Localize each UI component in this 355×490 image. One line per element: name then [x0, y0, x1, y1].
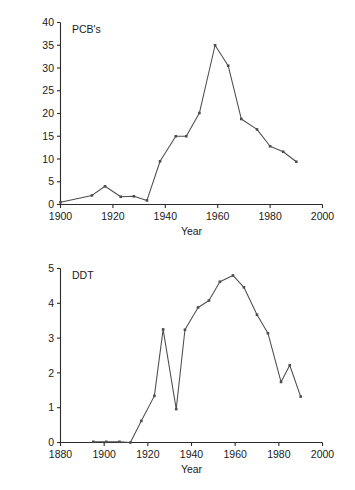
x-tick-label: 1940 — [154, 210, 178, 222]
y-tick-label: 30 — [42, 62, 54, 74]
y-tick-label: 25 — [42, 84, 54, 96]
data-point-marker — [256, 313, 259, 316]
y-tick-label: 35 — [42, 39, 54, 51]
data-point-marker — [174, 135, 177, 138]
data-series-line — [61, 45, 297, 202]
data-point-marker — [184, 328, 187, 331]
data-point-marker — [198, 112, 201, 115]
data-point-marker — [129, 441, 132, 444]
y-tick-label: 10 — [42, 153, 54, 165]
data-point-marker — [269, 145, 272, 148]
data-point-marker — [267, 332, 270, 335]
data-point-marker — [146, 199, 149, 202]
data-point-marker — [91, 194, 94, 197]
y-tick-label: 15 — [42, 130, 54, 142]
y-tick-label: 4 — [48, 297, 54, 309]
x-axis-title: Year — [181, 463, 203, 475]
data-point-marker — [197, 306, 200, 309]
charts-svg: 0510152025303540190019201940196019802000… — [0, 0, 355, 490]
chart-panel-ddt: 0123451880190019201940196019802000YearDD… — [48, 262, 334, 474]
data-point-marker — [92, 441, 95, 444]
data-point-marker — [140, 420, 143, 423]
x-tick-label: 1880 — [49, 448, 73, 460]
y-tick-label: 2 — [48, 367, 54, 379]
data-point-marker — [299, 395, 302, 398]
chart-panel-pcbs: 0510152025303540190019201940196019802000… — [42, 16, 334, 236]
y-tick-label: 1 — [48, 401, 54, 413]
data-point-marker — [185, 135, 188, 138]
data-point-marker — [133, 195, 136, 198]
x-tick-label: 1900 — [49, 210, 73, 222]
data-point-marker — [282, 150, 285, 153]
x-axis-title: Year — [181, 225, 203, 237]
x-tick-label: 1920 — [136, 448, 160, 460]
figure-container: Concentration in µg/kg (parts per billio… — [0, 0, 355, 490]
x-tick-label: 2000 — [311, 448, 335, 460]
panel-title: DDT — [72, 269, 94, 281]
data-point-marker — [227, 64, 230, 67]
data-point-marker — [288, 364, 291, 367]
y-tick-label: 0 — [48, 436, 54, 448]
y-tick-label: 5 — [48, 262, 54, 274]
data-point-marker — [105, 441, 108, 444]
x-tick-label: 1960 — [223, 448, 247, 460]
data-point-marker — [162, 328, 165, 331]
data-point-marker — [214, 44, 217, 47]
data-point-marker — [232, 274, 235, 277]
y-tick-label: 3 — [48, 332, 54, 344]
x-tick-label: 1920 — [101, 210, 125, 222]
data-point-marker — [119, 195, 122, 198]
x-tick-label: 1980 — [258, 210, 282, 222]
data-point-marker — [175, 408, 178, 411]
panel-title: PCB's — [72, 23, 101, 35]
x-tick-label: 1940 — [180, 448, 204, 460]
y-tick-label: 0 — [48, 198, 54, 210]
x-tick-label: 1960 — [206, 210, 230, 222]
y-tick-label: 20 — [42, 107, 54, 119]
data-point-marker — [104, 185, 107, 188]
data-point-marker — [256, 128, 259, 131]
x-tick-label: 1980 — [267, 448, 291, 460]
y-tick-label: 5 — [48, 175, 54, 187]
data-point-marker — [243, 286, 246, 289]
data-series-line — [93, 275, 300, 442]
y-tick-label: 40 — [42, 16, 54, 28]
x-tick-label: 2000 — [311, 210, 335, 222]
data-point-marker — [240, 118, 243, 121]
data-point-marker — [219, 280, 222, 283]
data-point-marker — [153, 395, 156, 398]
data-point-marker — [118, 441, 121, 444]
data-point-marker — [208, 299, 211, 302]
data-point-marker — [295, 160, 298, 163]
x-tick-label: 1900 — [92, 448, 116, 460]
data-point-marker — [159, 160, 162, 163]
data-point-marker — [280, 381, 283, 384]
data-point-marker — [59, 201, 62, 204]
